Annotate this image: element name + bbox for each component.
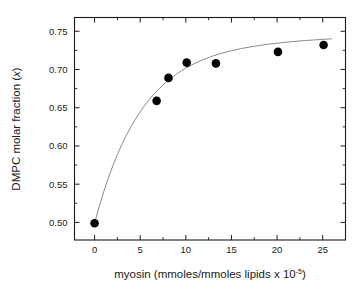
data-point [182, 58, 191, 67]
x-tick-label: 20 [272, 244, 283, 255]
chart-figure: 0510152025 0.500.550.600.650.700.75 myos… [0, 0, 364, 292]
data-point [164, 74, 173, 83]
y-tick-label: 0.55 [49, 179, 68, 190]
data-point [90, 219, 99, 228]
y-tick-label: 0.70 [49, 64, 68, 75]
x-tick-label: 15 [226, 244, 237, 255]
scatter-plot: 0510152025 0.500.550.600.650.700.75 myos… [0, 0, 364, 292]
x-axis-title: myosin (mmoles/mmoles lipids x 10-5) [114, 268, 306, 280]
data-point [274, 48, 283, 57]
y-tick-label: 0.65 [49, 102, 68, 113]
y-axis-title: DMPC molar fraction (x) [10, 67, 22, 191]
data-point [212, 59, 221, 68]
y-tick-label: 0.75 [49, 26, 68, 37]
x-tick-label: 25 [317, 244, 328, 255]
y-tick-label: 0.60 [49, 140, 68, 151]
x-tick-label: 10 [181, 244, 192, 255]
data-point [319, 41, 328, 50]
y-tick-label: 0.50 [49, 217, 68, 228]
x-tick-label: 5 [138, 244, 143, 255]
data-point [152, 97, 161, 106]
x-tick-label: 0 [92, 244, 97, 255]
